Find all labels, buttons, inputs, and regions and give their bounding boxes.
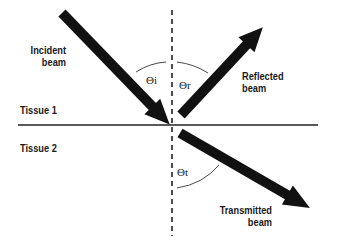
- refraction-diagram: Incident beam Reflected beam Transmitted…: [0, 0, 337, 244]
- tissue-2-label: Tissue 2: [20, 142, 57, 154]
- theta-transmitted-label: Θt: [177, 166, 188, 178]
- reflected-angle-arc: [177, 62, 208, 73]
- incident-label-line1: Incident: [27, 44, 66, 56]
- reflected-beam-label: Reflected beam: [242, 70, 284, 94]
- tissue-1-label: Tissue 1: [20, 104, 57, 116]
- reflected-label-line2: beam: [242, 82, 284, 94]
- incident-beam-label: Incident beam: [27, 44, 66, 68]
- transmitted-beam-label: Transmitted beam: [209, 204, 272, 228]
- incident-angle-arc: [136, 62, 166, 72]
- reflected-label-line1: Reflected: [242, 70, 284, 82]
- theta-reflected-label: Θr: [179, 79, 191, 91]
- transmitted-label-line2: beam: [209, 216, 272, 228]
- theta-incident-label: Θi: [146, 74, 157, 86]
- incident-beam-arrow: [54, 5, 177, 132]
- incident-label-line2: beam: [27, 56, 66, 68]
- diagram-graphics: [0, 0, 337, 244]
- transmitted-label-line1: Transmitted: [209, 204, 272, 216]
